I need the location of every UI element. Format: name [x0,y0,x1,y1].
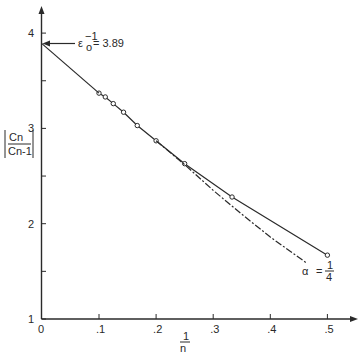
y-tick-labels: 1234 [28,27,34,325]
x-axis-label: 1 n [180,330,190,353]
y-tick-label: 2 [28,218,34,230]
x-tick-label: .3 [210,323,219,335]
epsilon-subscript: o [86,41,92,53]
chart: 1234 0.1.2.3.4.5 Cn Cn-1 1 n ε o −1 = 3.… [0,0,363,353]
y-label-denominator: Cn-1 [8,145,32,157]
x-ticks [99,314,327,319]
axes [39,6,359,322]
data-point [111,101,115,105]
alpha-numerator: 1 [327,259,333,271]
x-tick-label: .5 [324,323,333,335]
x-axis-arrow-icon [350,316,358,322]
y-tick-label: 4 [28,27,34,39]
y-label-numerator: Cn [9,131,23,143]
series-group [42,44,330,263]
epsilon-annotation: ε o −1 = 3.89 [43,30,124,53]
alpha-equals: = [316,265,322,277]
series-line [99,93,327,255]
x-tick-label: 0 [38,323,44,335]
y-tick-label: 1 [28,313,34,325]
epsilon-symbol: ε [78,37,83,49]
data-point [230,195,234,199]
data-point [325,253,329,257]
series-line [156,141,306,263]
x-label-denominator: n [180,342,186,353]
data-point [103,95,107,99]
x-tick-label: .4 [267,323,276,335]
data-point [135,123,139,127]
alpha-annotation: α = 1 4 [302,259,334,283]
x-tick-label: .2 [153,323,162,335]
epsilon-value: = 3.89 [93,37,124,49]
alpha-denominator: 4 [326,271,332,283]
y-axis-arrow-icon [39,6,45,14]
x-tick-label: .1 [96,323,105,335]
x-label-numerator: 1 [183,330,189,342]
alpha-symbol: α [302,265,309,277]
data-point [121,110,125,114]
